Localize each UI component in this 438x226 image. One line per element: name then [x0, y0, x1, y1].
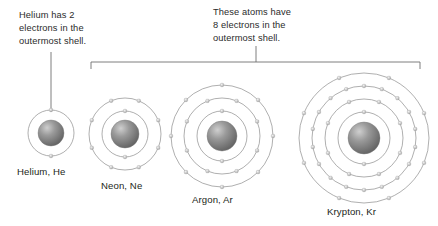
nucleus: [207, 121, 237, 151]
electron: [414, 127, 417, 130]
atom-argon: [169, 83, 274, 188]
electron: [362, 84, 365, 87]
electron: [347, 172, 350, 175]
electron: [398, 151, 401, 154]
electron: [311, 127, 314, 130]
atom-label-krypton: Krypton, Kr: [327, 206, 376, 217]
electron: [380, 87, 383, 90]
electron: [362, 162, 365, 165]
nucleus: [111, 120, 139, 148]
electron: [302, 161, 305, 164]
electron: [345, 87, 348, 90]
electron: [49, 108, 52, 111]
electron: [396, 176, 399, 179]
electron: [329, 176, 332, 179]
electron: [169, 134, 172, 137]
electron: [377, 172, 380, 175]
electron: [220, 185, 223, 188]
electron: [362, 188, 365, 191]
electron: [220, 109, 223, 112]
electron: [110, 99, 113, 102]
electron: [235, 169, 238, 172]
electron: [407, 162, 410, 165]
electron: [414, 145, 417, 148]
electron: [137, 166, 140, 169]
electron: [235, 99, 238, 102]
noble-gas-shell-diagram: Helium has 2 electrons in the outermost …: [0, 0, 438, 226]
electron: [317, 162, 320, 165]
electron: [302, 111, 305, 114]
electron: [206, 99, 209, 102]
electron: [220, 159, 223, 162]
electron: [123, 109, 126, 112]
electron: [90, 146, 93, 149]
electron: [329, 96, 332, 99]
electron: [184, 170, 187, 173]
electron: [326, 151, 329, 154]
atom-label-argon: Argon, Ar: [192, 194, 233, 205]
electron: [137, 99, 140, 102]
atom-krypton: [299, 73, 429, 203]
electron: [311, 145, 314, 148]
electron: [347, 100, 350, 103]
electron: [157, 146, 160, 149]
electron: [387, 196, 390, 199]
electron: [396, 96, 399, 99]
atom-label-neon: Neon, Ne: [101, 180, 142, 191]
electron: [398, 121, 401, 124]
electron: [206, 169, 209, 172]
electron: [185, 120, 188, 123]
electron: [49, 154, 52, 157]
octet-callout-text: These atoms have 8 electrons in the oute…: [213, 6, 291, 46]
electron: [337, 76, 340, 79]
atom-neon: [89, 98, 161, 170]
electron: [123, 155, 126, 158]
atom-helium: [28, 108, 74, 157]
electron: [337, 196, 340, 199]
electron: [255, 120, 258, 123]
atom-label-helium: Helium, He: [17, 166, 65, 177]
electron: [377, 100, 380, 103]
electron: [256, 170, 259, 173]
electron: [422, 111, 425, 114]
electron: [422, 161, 425, 164]
electron: [220, 83, 223, 86]
helium-callout-text: Helium has 2 electrons in the outermost …: [19, 9, 86, 49]
octet-bracket: [91, 62, 420, 69]
electron: [90, 119, 93, 122]
electron: [326, 121, 329, 124]
electron: [157, 119, 160, 122]
electron: [185, 149, 188, 152]
electron: [110, 166, 113, 169]
electron: [362, 110, 365, 113]
electron: [271, 134, 274, 137]
electron: [256, 98, 259, 101]
nucleus: [348, 122, 380, 154]
electron: [407, 110, 410, 113]
electron: [317, 110, 320, 113]
electron: [255, 149, 258, 152]
electron: [184, 98, 187, 101]
atoms-layer: [28, 73, 429, 203]
electron: [387, 76, 390, 79]
nucleus: [38, 120, 64, 146]
electron: [345, 185, 348, 188]
electron: [380, 185, 383, 188]
